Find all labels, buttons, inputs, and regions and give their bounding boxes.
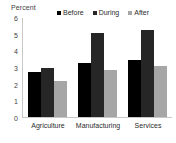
chart-legend: Before During After — [57, 9, 149, 16]
legend-label-during: During — [99, 9, 120, 16]
legend-swatch-during — [93, 11, 97, 15]
x-tick-label: Agriculture — [23, 122, 73, 129]
y-tick-label: 0 — [14, 115, 18, 122]
y-tick-label: 5 — [14, 31, 18, 38]
bar-before-services[interactable] — [128, 60, 141, 117]
bar-after-manufacturing[interactable] — [104, 70, 117, 117]
bar-group — [23, 18, 73, 117]
bar-after-agriculture[interactable] — [54, 81, 67, 117]
bar-after-services[interactable] — [154, 66, 167, 117]
x-tick-label: Services — [123, 122, 173, 129]
bar-groups — [23, 18, 172, 117]
y-tick-label: 6 — [14, 15, 18, 22]
x-tick-label: Manufacturing — [73, 122, 123, 129]
legend-item-during[interactable]: During — [93, 9, 120, 16]
bar-during-agriculture[interactable] — [41, 68, 54, 117]
plot-area: 6543210 — [22, 18, 172, 118]
legend-item-after[interactable]: After — [128, 9, 149, 16]
bar-chart: Percent Before During After 6543210 Agri… — [0, 0, 176, 143]
y-tick-label: 3 — [14, 65, 18, 72]
bar-before-manufacturing[interactable] — [78, 63, 91, 117]
x-axis-labels: AgricultureManufacturingServices — [23, 122, 173, 129]
bar-group — [73, 18, 123, 117]
y-tick-label: 2 — [14, 81, 18, 88]
legend-swatch-before — [57, 11, 61, 15]
y-tick-label: 4 — [14, 48, 18, 55]
bar-before-agriculture[interactable] — [28, 72, 41, 117]
legend-swatch-after — [128, 11, 132, 15]
bar-during-manufacturing[interactable] — [91, 33, 104, 117]
y-tick-label: 1 — [14, 98, 18, 105]
bar-during-services[interactable] — [141, 30, 154, 117]
y-axis-title: Percent — [11, 4, 36, 11]
x-axis-line — [22, 117, 172, 118]
bar-group — [122, 18, 172, 117]
legend-label-before: Before — [63, 9, 84, 16]
legend-item-before[interactable]: Before — [57, 9, 84, 16]
legend-label-after: After — [134, 9, 149, 16]
